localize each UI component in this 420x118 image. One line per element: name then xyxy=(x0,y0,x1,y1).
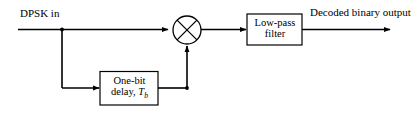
one-bit-delay-label: One-bit delay, Tb xyxy=(101,75,158,100)
one-bit-delay-subscript: b xyxy=(144,91,148,100)
one-bit-delay-label-line1: One-bit xyxy=(113,75,145,86)
input-label: DPSK in xyxy=(20,8,59,20)
low-pass-filter-label-line2: filter xyxy=(265,28,285,39)
diagram-canvas: DPSK in Decoded binary output Low-pass f… xyxy=(0,0,420,118)
low-pass-filter-label-line1: Low-pass xyxy=(255,17,296,28)
output-label: Decoded binary output xyxy=(310,7,411,19)
low-pass-filter-label: Low-pass filter xyxy=(248,17,302,39)
one-bit-delay-label-line2-prefix: delay, xyxy=(111,86,138,97)
